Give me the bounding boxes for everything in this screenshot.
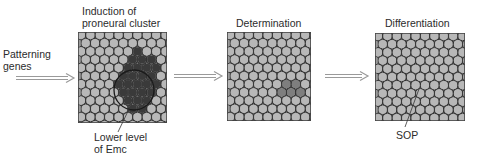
label-line: genes <box>3 60 51 72</box>
leader-line <box>402 88 422 128</box>
title-line: Differentiation <box>385 17 450 29</box>
title-line: proneural cluster <box>82 17 160 29</box>
leader-line <box>115 108 135 133</box>
arrow-icon <box>174 70 224 82</box>
label-line: Patterning <box>3 48 51 60</box>
title-line: Induction of <box>82 5 160 17</box>
arrow-icon <box>16 72 76 84</box>
annotation-line: of Emc <box>94 143 147 155</box>
arrow-icon <box>325 70 370 82</box>
annotation-line: SOP <box>396 129 418 141</box>
panel-title-differentiation: Differentiation <box>385 17 450 29</box>
annotation-sop: SOP <box>396 129 418 141</box>
patterning-genes-label: Patterning genes <box>3 48 51 72</box>
panel-title-determination: Determination <box>236 17 301 29</box>
panel-title-induction: Induction of proneural cluster <box>82 5 160 29</box>
cell-grid-determination <box>227 32 311 121</box>
annotation-lower-emc: Lower level of Emc <box>94 131 147 155</box>
title-line: Determination <box>236 17 301 29</box>
